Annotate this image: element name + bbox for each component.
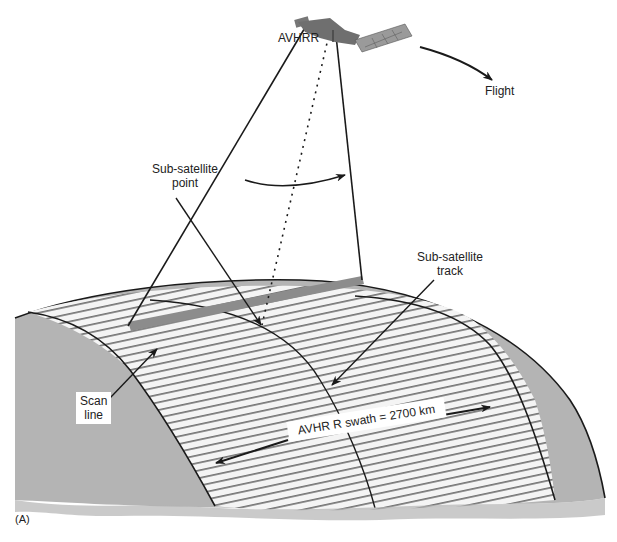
scan-line-label-line2: line <box>80 408 107 422</box>
sensor-label: AVHRR <box>278 31 319 45</box>
sub-satellite-point-label-line2: point <box>140 176 230 190</box>
diagram-canvas <box>0 0 617 542</box>
panel-label: (A) <box>15 512 30 526</box>
flight-direction-arrow <box>420 47 492 80</box>
sub-satellite-track-label-line2: track <box>405 264 495 278</box>
sub-satellite-point-label-line1: Sub-satellite <box>140 162 230 176</box>
flight-label: Flight <box>485 84 514 98</box>
fov-right-line <box>335 26 362 280</box>
sub-satellite-track-label: Sub-satellite track <box>405 250 495 278</box>
scan-line-label-line1: Scan <box>80 394 107 408</box>
sub-satellite-point-label: Sub-satellite point <box>140 162 230 190</box>
sub-satellite-track-label-line1: Sub-satellite <box>405 250 495 264</box>
scan-line-label: Scan line <box>76 392 111 424</box>
avhrr-swath-diagram: AVHRR Flight Sub-satellite point Sub-sat… <box>0 0 617 542</box>
